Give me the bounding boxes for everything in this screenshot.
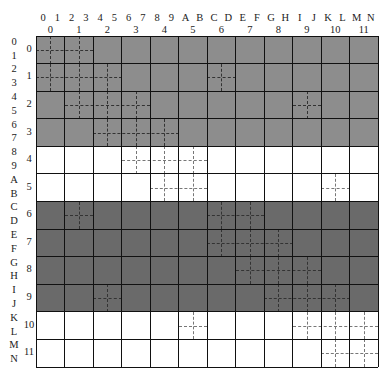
grid-line-horizontal	[36, 229, 378, 230]
subdivision-line-vertical	[193, 312, 194, 340]
fine-col-label: H	[278, 13, 292, 24]
fine-col-label: 6	[122, 13, 136, 24]
subdivision-line-vertical	[79, 202, 80, 230]
fine-col-label: J	[307, 13, 321, 24]
fine-col-label: A	[179, 13, 193, 24]
subdivision-line-vertical	[164, 174, 165, 202]
subdivision-line-vertical	[193, 146, 194, 174]
subdivision-line-vertical	[164, 119, 165, 147]
subdivision-line-vertical	[364, 312, 365, 340]
subdivision-line-vertical	[107, 91, 108, 119]
coarse-row-label: 0	[21, 44, 37, 55]
grid-line-horizontal	[36, 63, 378, 64]
fine-col-label: F	[250, 13, 264, 24]
coarse-row-label: 1	[21, 71, 37, 82]
subdivision-line-vertical	[250, 257, 251, 285]
coarse-col-label: 2	[100, 25, 114, 36]
fine-col-label: 4	[93, 13, 107, 24]
grid-line-horizontal	[36, 339, 378, 340]
fine-row-label: D	[7, 216, 21, 227]
subdivision-line-vertical	[79, 64, 80, 92]
fine-col-label: E	[236, 13, 250, 24]
fine-col-label: B	[193, 13, 207, 24]
coarse-col-label: 9	[300, 25, 314, 36]
fine-row-label: 8	[7, 147, 21, 158]
grid-line-horizontal	[36, 256, 378, 257]
coarse-row-label: 8	[21, 264, 37, 275]
coarse-row-label: 6	[21, 209, 37, 220]
subdivision-line-vertical	[307, 257, 308, 285]
fine-row-label: C	[7, 202, 21, 213]
grid-line-horizontal	[36, 36, 378, 37]
fine-col-label: C	[207, 13, 221, 24]
grid-line-horizontal	[36, 118, 378, 119]
fine-row-label: M	[7, 340, 21, 351]
fine-row-label: 4	[7, 92, 21, 103]
fine-row-label: E	[7, 230, 21, 241]
coarse-col-label: 8	[271, 25, 285, 36]
coarse-col-label: 11	[357, 25, 371, 36]
fine-col-label: 8	[150, 13, 164, 24]
coarse-col-label: 3	[129, 25, 143, 36]
fine-col-label: 2	[65, 13, 79, 24]
subdivision-line-vertical	[250, 202, 251, 230]
coarse-row-label: 3	[21, 127, 37, 138]
fine-row-label: J	[7, 299, 21, 310]
grid-line-horizontal	[36, 367, 378, 368]
subdivision-line-vertical	[335, 339, 336, 367]
tile-grid	[36, 36, 378, 367]
subdivision-line-vertical	[221, 202, 222, 230]
coarse-col-label: 6	[214, 25, 228, 36]
fine-row-label: K	[7, 313, 21, 324]
coarse-col-label: 0	[43, 25, 57, 36]
coarse-row-label: 4	[21, 154, 37, 165]
fine-col-label: L	[335, 13, 349, 24]
subdivision-line-vertical	[136, 146, 137, 174]
fine-row-label: 0	[7, 37, 21, 48]
subdivision-line-vertical	[79, 91, 80, 119]
fine-row-label: B	[7, 189, 21, 200]
fine-row-label: A	[7, 175, 21, 186]
fine-row-label: 6	[7, 120, 21, 131]
fine-row-label: G	[7, 258, 21, 269]
fine-row-label: F	[7, 244, 21, 255]
subdivision-line-vertical	[335, 312, 336, 340]
fine-row-label: 3	[7, 78, 21, 89]
subdivision-line-vertical	[335, 174, 336, 202]
coarse-row-label: 7	[21, 237, 37, 248]
subdivision-line-vertical	[50, 64, 51, 92]
fine-col-label: 3	[79, 13, 93, 24]
subdivision-line-vertical	[364, 339, 365, 367]
grid-line-horizontal	[36, 146, 378, 147]
fine-row-label: 7	[7, 133, 21, 144]
fine-row-label: L	[7, 327, 21, 338]
subdivision-line-vertical	[307, 91, 308, 119]
fine-row-label: 1	[7, 51, 21, 62]
fine-col-label: 9	[164, 13, 178, 24]
coarse-row-label: 10	[21, 320, 37, 331]
subdivision-line-vertical	[278, 257, 279, 285]
subdivision-line-vertical	[107, 284, 108, 312]
fine-row-label: 9	[7, 161, 21, 172]
fine-row-label: H	[7, 271, 21, 282]
fine-col-label: K	[321, 13, 335, 24]
subdivision-line-vertical	[307, 284, 308, 312]
coarse-row-label: 9	[21, 292, 37, 303]
fine-col-label: G	[264, 13, 278, 24]
grid-line-horizontal	[36, 201, 378, 202]
fine-col-label: 5	[107, 13, 121, 24]
grid-line-horizontal	[36, 173, 378, 174]
coarse-col-label: 4	[157, 25, 171, 36]
coarse-row-label: 5	[21, 182, 37, 193]
subdivision-line-vertical	[107, 64, 108, 92]
coarse-col-label: 5	[186, 25, 200, 36]
subdivision-line-vertical	[278, 284, 279, 312]
fine-col-label: I	[293, 13, 307, 24]
subdivision-line-vertical	[164, 146, 165, 174]
subdivision-line-vertical	[221, 229, 222, 257]
grid-line-horizontal	[36, 311, 378, 312]
coarse-col-label: 7	[243, 25, 257, 36]
subdivision-line-vertical	[50, 36, 51, 64]
fine-col-label: 0	[36, 13, 50, 24]
subdivision-line-vertical	[136, 119, 137, 147]
